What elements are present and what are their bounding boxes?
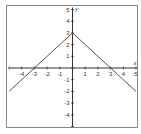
y-tick-label: -2 [64,88,70,94]
y-tick-label: -4 [64,112,70,118]
function-graph: -4-3-2-11234554321-1-2-3-4xy [0,0,141,134]
x-tick-label: -2 [44,71,50,77]
y-tick-label: -3 [64,100,70,106]
x-tick-label: -1 [57,71,63,77]
y-tick-label: -1 [64,77,70,83]
x-tick-label: -4 [19,71,25,77]
x-tick-label: -3 [32,71,38,77]
